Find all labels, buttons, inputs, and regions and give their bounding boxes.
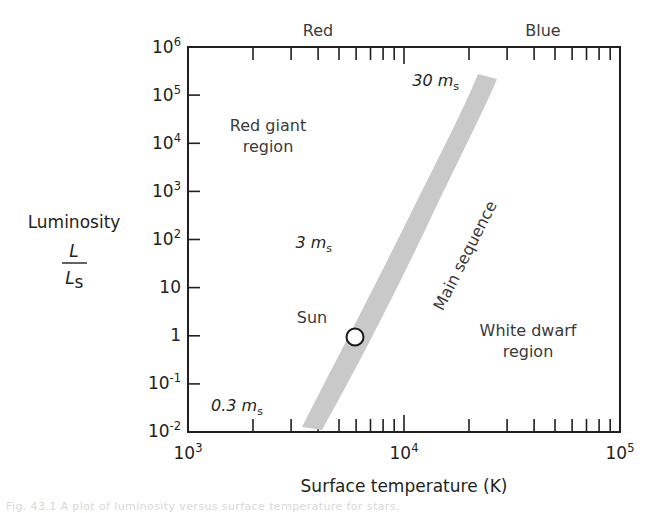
- x-label-1e5: 105: [606, 441, 635, 463]
- mass-label-30ms: 30 ms: [412, 71, 459, 93]
- y-axis-tick-labels: 106 105 104 103 102 10 1 10-1 10-2: [148, 35, 181, 441]
- red-giant-region-annotation: Red giant region: [230, 116, 306, 156]
- y-axis-title: Luminosity: [28, 212, 121, 232]
- y-axis-fraction-numerator: L: [69, 241, 78, 261]
- x-label-1e3: 103: [174, 441, 203, 463]
- y-axis-fraction-denominator-sub: s: [75, 272, 84, 292]
- white-dwarf-region-line2: region: [503, 342, 554, 361]
- top-axis-label-red: Red: [303, 21, 333, 40]
- y-label-1em1: 10-1: [148, 371, 181, 393]
- y-axis-fraction-denominator: L: [65, 268, 74, 288]
- top-axis-label-blue: Blue: [525, 21, 560, 40]
- y-label-1e4: 104: [152, 131, 181, 153]
- x-axis-title: Surface temperature (K): [301, 476, 508, 496]
- y-label-1e2: 102: [152, 227, 181, 249]
- white-dwarf-region-annotation: White dwarf region: [480, 321, 577, 361]
- x-label-1e4: 104: [390, 441, 419, 463]
- mass-label-03ms: 0.3 ms: [211, 396, 263, 418]
- y-label-1e5: 105: [152, 83, 181, 105]
- y-label-1em2: 10-2: [148, 419, 181, 441]
- y-label-1e3: 103: [152, 179, 181, 201]
- y-label-1e6: 106: [152, 35, 181, 57]
- mass-label-3ms: 3 ms: [295, 233, 332, 255]
- x-axis-tick-labels: 103 104 105: [174, 441, 635, 463]
- y-label-1: 1: [170, 325, 181, 345]
- y-axis-ticks: [188, 95, 200, 384]
- sun-marker-icon: [347, 329, 364, 346]
- x-axis-top-ticks: [253, 47, 610, 64]
- red-giant-region-line2: region: [243, 137, 294, 156]
- figure-caption-ghost: Fig. 43.1 A plot of luminosity versus su…: [6, 500, 400, 513]
- sun-label: Sun: [297, 308, 327, 327]
- white-dwarf-region-line1: White dwarf: [480, 321, 577, 340]
- red-giant-region-line1: Red giant: [230, 116, 306, 135]
- main-sequence-label: Main sequence: [429, 198, 501, 314]
- y-axis-fraction: L L s: [62, 241, 87, 292]
- y-label-10: 10: [159, 277, 181, 297]
